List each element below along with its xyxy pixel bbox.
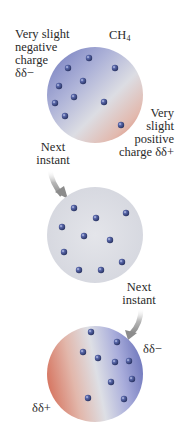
electron-dot	[126, 358, 132, 364]
label-line: instant	[28, 154, 78, 167]
negative-charge-label-stage3: δδ−	[143, 343, 162, 356]
electron-dot	[80, 78, 86, 84]
next-instant-label-2: Next instant	[116, 281, 162, 307]
electron-dot	[56, 83, 62, 89]
electron-dot	[88, 329, 94, 335]
electron-dot	[93, 215, 99, 221]
positive-charge-label: Very slight positive charge δδ+	[119, 107, 174, 159]
electron-dot	[112, 359, 118, 365]
electron-dot	[101, 99, 107, 105]
positive-charge-label-stage3: δδ+	[32, 402, 51, 415]
arrow-icon	[125, 308, 141, 340]
electron-dot	[59, 224, 65, 230]
electron-dot	[85, 395, 91, 401]
electron-dot	[114, 339, 120, 345]
electron-dot	[81, 233, 87, 239]
electron-cloud-neutral	[47, 187, 143, 283]
electron-dot	[62, 113, 68, 119]
electron-dot	[107, 237, 113, 243]
electron-dot	[71, 205, 77, 211]
molecule-formula: CH4	[109, 29, 130, 42]
electron-dot	[76, 267, 82, 273]
label-line: charge δδ+	[119, 146, 174, 159]
electron-dot	[108, 379, 114, 385]
electron-dot	[95, 355, 101, 361]
electron-dot	[71, 94, 77, 100]
arrow-icon	[50, 170, 68, 199]
electron-dot	[112, 65, 118, 71]
next-instant-label-1: Next instant	[28, 141, 78, 167]
electron-dot	[129, 376, 135, 382]
electron-dot	[52, 100, 58, 106]
electron-dot	[61, 249, 67, 255]
label-line: instant	[116, 294, 162, 307]
electron-dot	[123, 210, 129, 216]
electron-cloud-polarized-2	[47, 326, 143, 422]
negative-charge-label: Very slight negative charge δδ−	[15, 28, 70, 80]
electron-dot	[119, 259, 125, 265]
electron-dot	[98, 267, 104, 273]
electron-dot	[80, 349, 86, 355]
formula-subscript: 4	[126, 34, 130, 43]
electron-dot	[86, 55, 92, 61]
label-line: δδ−	[15, 67, 70, 80]
electron-dot	[121, 396, 127, 402]
formula-text: CH	[109, 28, 126, 42]
